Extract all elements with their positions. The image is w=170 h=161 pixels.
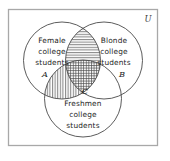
set-a-line2: college (38, 47, 66, 56)
set-b-letter: B (118, 69, 125, 79)
universe-label: U (144, 14, 152, 24)
venn-diagram-figure: U Female (0, 0, 170, 161)
set-b-line3: students (97, 58, 130, 67)
set-b-line2: college (100, 47, 128, 56)
set-b-line1: Blonde (101, 36, 128, 45)
venn-diagram-svg: U Female (0, 0, 170, 161)
set-c-line2: college (69, 110, 97, 119)
set-c-line1: Freshmen (64, 99, 101, 108)
set-a-letter: A (41, 69, 48, 79)
set-c-letter: C (82, 86, 89, 96)
set-a-line1: Female (38, 36, 66, 45)
set-a-line3: students (35, 58, 68, 67)
set-c-line3: students (66, 121, 99, 130)
